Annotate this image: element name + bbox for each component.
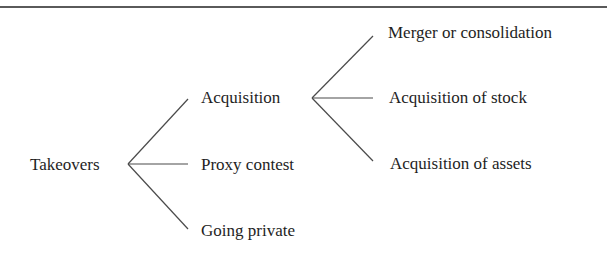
edge-acquisition-assets xyxy=(312,98,373,161)
node-acquisition-of-assets: Acquisition of assets xyxy=(390,154,532,174)
edge-takeovers-acquisition xyxy=(128,99,188,164)
node-takeovers: Takeovers xyxy=(30,155,100,175)
edge-acquisition-merger xyxy=(312,36,373,98)
edge-takeovers-private xyxy=(128,164,188,229)
node-going-private: Going private xyxy=(201,221,295,241)
node-acquisition-of-stock: Acquisition of stock xyxy=(389,88,527,108)
node-merger-or-consolidation: Merger or consolidation xyxy=(388,23,552,43)
node-proxy-contest: Proxy contest xyxy=(201,155,294,175)
node-acquisition: Acquisition xyxy=(201,88,280,108)
